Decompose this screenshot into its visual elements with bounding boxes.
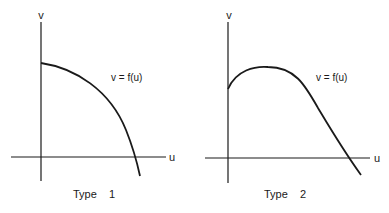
v-axis-label: v [226,9,232,21]
curve-label: v = f(u) [316,72,347,83]
figure-canvas: v u v = f(u) Type 1 v u v = f(u) Type 2 [0,0,389,213]
panel-type1: v u v = f(u) Type 1 [11,9,175,200]
curve-label: v = f(u) [111,72,142,83]
u-axis-label: u [374,152,380,164]
panel-caption: Type 2 [264,188,306,200]
u-axis-label: u [169,151,175,163]
panel-type2: v u v = f(u) Type 2 [205,9,380,200]
curve-v-f-u [228,67,361,175]
v-axis-label: v [38,9,44,21]
panel-caption: Type 1 [73,188,115,200]
